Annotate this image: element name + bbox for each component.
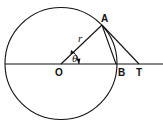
- label-A: A: [101, 13, 108, 24]
- geometry-diagram: O A B T r θ: [0, 0, 163, 131]
- tangent-AT: [102, 25, 139, 64]
- label-T: T: [136, 67, 142, 78]
- label-O: O: [55, 67, 63, 78]
- label-B: B: [118, 67, 125, 78]
- label-r: r: [78, 32, 83, 44]
- label-theta: θ: [72, 52, 78, 64]
- radius-OA: [61, 25, 102, 64]
